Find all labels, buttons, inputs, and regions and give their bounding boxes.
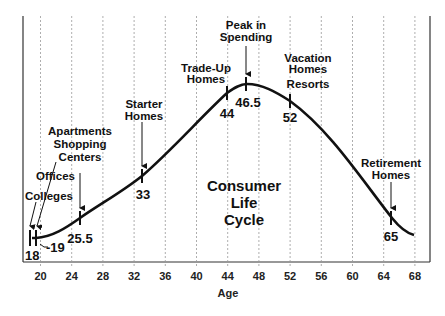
tick-20: 20 <box>34 270 46 282</box>
tick-60: 60 <box>346 270 358 282</box>
label-shopping: Shopping <box>53 138 106 150</box>
x-axis-label: Age <box>218 287 239 299</box>
consumer-life-cycle-chart: Colleges Offices Apartments Shopping Cen… <box>0 0 445 316</box>
tick-48: 48 <box>253 270 265 282</box>
x-axis-ticks: 20 24 28 32 36 40 44 48 52 56 60 64 68 <box>34 270 421 282</box>
value-33: 33 <box>136 187 150 202</box>
value-19: -19 <box>46 240 65 255</box>
label-starter-homes: Homes <box>125 110 163 122</box>
chart-center-title: Consumer Life Cycle <box>207 177 281 228</box>
label-resorts: Resorts <box>287 78 330 90</box>
tick-24: 24 <box>66 270 79 282</box>
center-consumer: Consumer <box>207 177 281 194</box>
label-starter: Starter <box>125 98 163 110</box>
tick-68: 68 <box>409 270 421 282</box>
label-colleges: Colleges <box>25 190 73 202</box>
label-offices: Offices <box>36 170 75 182</box>
label-retirement-homes: Homes <box>372 169 410 181</box>
tick-36: 36 <box>159 270 171 282</box>
label-vacation-homes: Homes <box>289 63 327 75</box>
value-18: 18 <box>25 248 39 263</box>
tick-28: 28 <box>97 270 109 282</box>
tick-64: 64 <box>378 270 391 282</box>
value-25-5: 25.5 <box>67 231 92 246</box>
label-apartments: Apartments <box>48 125 112 137</box>
tick-40: 40 <box>190 270 202 282</box>
tick-56: 56 <box>315 270 327 282</box>
center-life: Life <box>231 194 258 211</box>
tick-32: 32 <box>128 270 140 282</box>
label-centers: Centers <box>59 151 102 163</box>
label-spending: Spending <box>220 31 272 43</box>
value-46-5: 46.5 <box>235 95 260 110</box>
tick-44: 44 <box>222 270 235 282</box>
value-52: 52 <box>283 110 297 125</box>
value-65: 65 <box>384 229 398 244</box>
label-retirement: Retirement <box>361 157 421 169</box>
tick-52: 52 <box>284 270 296 282</box>
center-cycle: Cycle <box>224 211 264 228</box>
label-tradeup-homes: Homes <box>187 73 225 85</box>
value-44: 44 <box>220 106 235 121</box>
label-peak: Peak in <box>226 19 266 31</box>
